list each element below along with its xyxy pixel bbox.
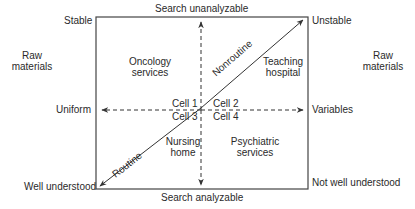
axis-bottom-label: Search analyzable bbox=[161, 192, 243, 203]
corner-bottom-left: Well understood bbox=[24, 181, 96, 192]
cell1-id: Cell 1 bbox=[172, 98, 198, 109]
cell4-example: Psychiatric services bbox=[220, 136, 290, 158]
cell4-id: Cell 4 bbox=[213, 111, 239, 122]
cell3-example: Nursing home bbox=[165, 136, 201, 158]
left-raw-materials-label: Raw materials bbox=[8, 50, 56, 72]
axis-top-label: Search unanalyzable bbox=[155, 3, 248, 14]
corner-top-left: Stable bbox=[64, 15, 92, 26]
corner-top-right: Unstable bbox=[312, 15, 351, 26]
cell2-id: Cell 2 bbox=[213, 98, 239, 109]
axis-right-label: Variables bbox=[312, 104, 353, 115]
corner-bottom-right: Not well understood bbox=[312, 177, 400, 188]
cell3-id: Cell 3 bbox=[172, 111, 198, 122]
right-raw-materials-label: Raw materials bbox=[358, 50, 408, 72]
axis-left-label: Uniform bbox=[56, 104, 91, 115]
cell1-example: Oncology services bbox=[120, 56, 180, 78]
cell2-example: Teaching hospital bbox=[258, 56, 308, 78]
